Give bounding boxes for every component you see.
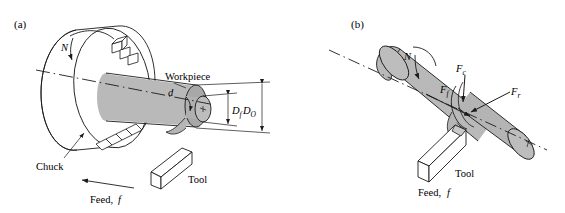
panel-label-b: (b) xyxy=(351,18,364,31)
feed-label-b: Feed, xyxy=(418,187,441,198)
workpiece-label: Workpiece xyxy=(165,71,211,82)
chuck-label: Chuck xyxy=(36,161,64,172)
depth-of-cut-label: d xyxy=(168,87,174,98)
turning-operation-figure: N d Workpiece Chuck Tool Feed, f Df xyxy=(0,0,565,213)
workpiece-back-end xyxy=(97,73,115,121)
rotation-label-a: N xyxy=(60,42,69,53)
panel-label-a: (a) xyxy=(14,18,27,31)
tool-label-b: Tool xyxy=(455,168,474,179)
rotation-label-b: N xyxy=(403,51,412,62)
feed-label-a: Feed, xyxy=(90,194,113,205)
tool-label-a: Tool xyxy=(188,174,207,185)
